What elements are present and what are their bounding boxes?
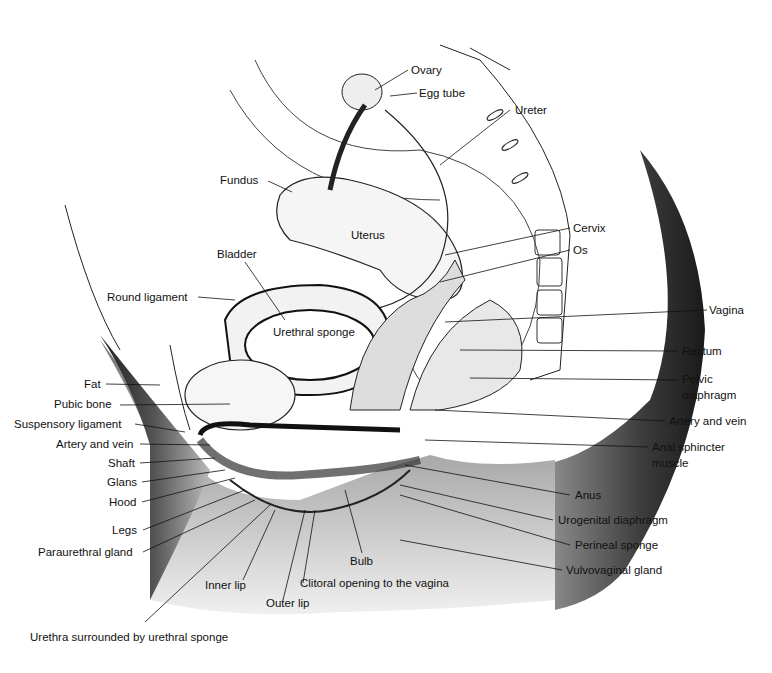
- label-fundus: Fundus: [220, 174, 258, 187]
- label-outer-lip: Outer lip: [266, 597, 309, 610]
- label-anus: Anus: [575, 489, 601, 502]
- label-clitoral-opening: Clitoral opening to the vagina: [300, 577, 449, 590]
- label-ovary: Ovary: [411, 64, 442, 77]
- label-artery-vein-right: Artery and vein: [669, 415, 746, 428]
- label-urogenital-diaphragm: Urogenital diaphragm: [558, 514, 668, 527]
- label-egg-tube: Egg tube: [419, 87, 465, 100]
- anatomy-diagram: Ovary Egg tube Ureter Fundus Uterus Cerv…: [0, 0, 772, 673]
- label-round-ligament: Round ligament: [107, 291, 188, 304]
- label-cervix: Cervix: [573, 222, 606, 235]
- label-vulvovaginal-gland: Vulvovaginal gland: [566, 564, 662, 577]
- label-urethral-sponge: Urethral sponge: [273, 326, 355, 339]
- label-hood: Hood: [109, 496, 137, 509]
- label-pubic-bone: Pubic bone: [54, 398, 112, 411]
- label-pelvic-diaphragm-2: diaphragm: [682, 389, 736, 402]
- label-uterus: Uterus: [351, 229, 385, 242]
- label-vagina: Vagina: [709, 304, 744, 317]
- label-shaft: Shaft: [108, 457, 135, 470]
- label-legs: Legs: [112, 524, 137, 537]
- label-urethra: Urethra surrounded by urethral sponge: [30, 631, 228, 644]
- label-pelvic-diaphragm-1: Pelvic: [682, 373, 713, 386]
- label-os: Os: [573, 244, 588, 257]
- label-perineal-sponge: Perineal sponge: [575, 539, 658, 552]
- label-anal-sphincter-2: muscle: [652, 457, 688, 470]
- label-bladder: Bladder: [217, 248, 257, 261]
- label-artery-vein-left: Artery and vein: [56, 438, 133, 451]
- label-rectum: Rectum: [682, 345, 722, 358]
- label-inner-lip: Inner lip: [205, 579, 246, 592]
- label-fat: Fat: [84, 378, 101, 391]
- label-ureter: Ureter: [515, 104, 547, 117]
- label-anal-sphincter-1: Anal sphincter: [652, 441, 725, 454]
- label-glans: Glans: [107, 476, 137, 489]
- label-paraurethral-gland: Paraurethral gland: [38, 546, 133, 559]
- label-bulb: Bulb: [350, 555, 373, 568]
- label-suspensory-ligament: Suspensory ligament: [14, 418, 121, 431]
